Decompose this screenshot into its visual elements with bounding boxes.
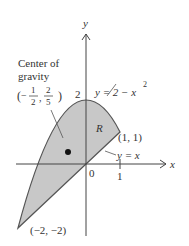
cog-y-denominator: 5 — [46, 97, 51, 107]
point-label-upper: (1, 1) — [118, 131, 142, 144]
parabola-label: y = 2 − x — [94, 86, 136, 98]
region-label: R — [95, 122, 103, 134]
diagram-canvas: y x 0 1 2 y = 2 − x 2 y = x R (1, 1) (−2… — [0, 0, 189, 246]
cog-x-numerator: 1 — [31, 85, 36, 95]
y-tick-label: 2 — [75, 88, 81, 100]
center-of-gravity-point — [65, 149, 71, 155]
cog-title-line2: gravity — [18, 70, 50, 82]
parabola-label-exponent: 2 — [143, 80, 147, 89]
line-label: y = x — [116, 149, 140, 161]
line-leader — [105, 151, 116, 155]
cog-x-sign: − — [21, 90, 27, 101]
cog-comma: , — [39, 92, 42, 103]
cog-y-numerator: 2 — [46, 85, 51, 95]
y-axis-label: y — [82, 17, 88, 29]
cog-title-line1: Center of — [18, 57, 60, 69]
x-tick-label: 1 — [117, 170, 123, 182]
cog-close-paren: ) — [58, 89, 62, 103]
point-label-lower: (−2, −2) — [30, 224, 67, 237]
x-axis-label: x — [169, 158, 175, 170]
cog-x-denominator: 2 — [31, 97, 36, 107]
origin-label: 0 — [89, 167, 95, 179]
